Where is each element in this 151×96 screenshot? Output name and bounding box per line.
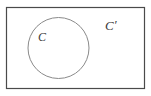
venn-diagram-canvas: C C′ <box>0 0 151 96</box>
set-c-complement-label: C′ <box>105 17 117 33</box>
complement-letter: C <box>105 18 114 33</box>
venn-diagram-figure: C C′ <box>0 0 151 96</box>
prime-mark: ′ <box>114 17 117 32</box>
set-c-label: C <box>38 30 47 44</box>
universal-set-rectangle <box>7 8 145 89</box>
set-c-circle <box>28 18 89 79</box>
